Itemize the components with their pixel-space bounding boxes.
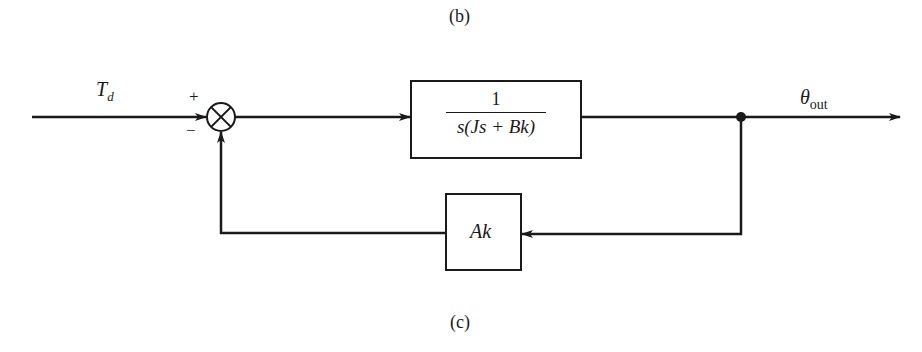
input-label-main: T <box>96 78 107 100</box>
output-label: θout <box>800 86 828 109</box>
output-label-main: θ <box>800 86 810 108</box>
forward-block-numerator: 1 <box>492 89 501 109</box>
fraction-bar <box>446 112 546 113</box>
output-label-subscript: out <box>810 97 828 112</box>
minus-sign: − <box>186 121 196 141</box>
block-diagram-wiring <box>0 0 922 352</box>
input-label: Td <box>96 78 114 101</box>
input-label-subscript: d <box>107 89 114 104</box>
forward-block-denominator: s(Js + Bk) <box>457 116 535 138</box>
feedback-block-label: Ak <box>470 220 491 243</box>
summing-junction-icon <box>207 103 235 131</box>
forward-block-transfer-function: 1 s(Js + Bk) <box>446 89 546 138</box>
plus-sign: + <box>189 87 199 107</box>
